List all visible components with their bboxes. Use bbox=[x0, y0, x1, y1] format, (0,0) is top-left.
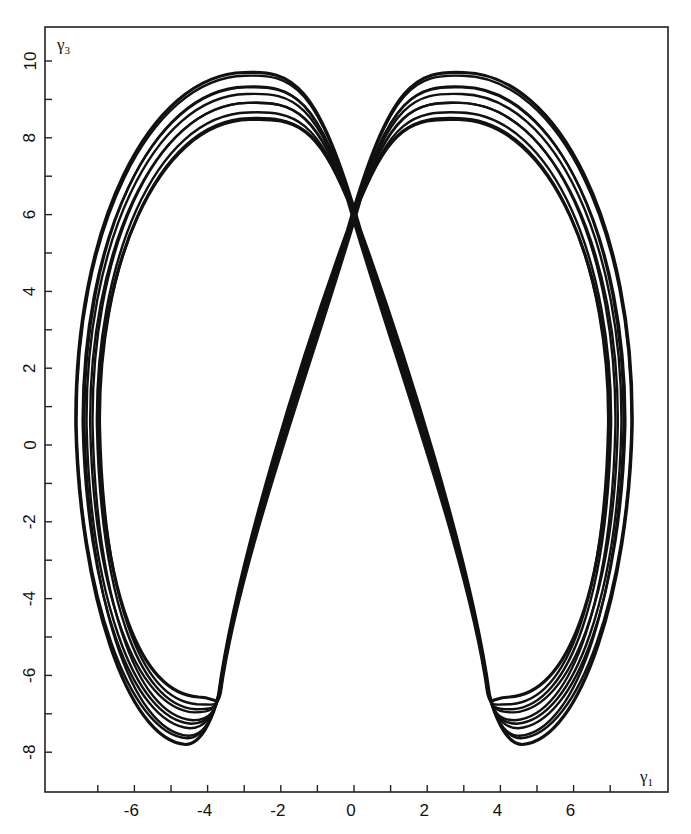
trajectory-strand bbox=[97, 112, 611, 709]
x-tick-label: 6 bbox=[566, 801, 575, 820]
x-tick-label: 2 bbox=[419, 801, 428, 820]
y-tick-label: -4 bbox=[21, 591, 40, 606]
trajectory-strand bbox=[90, 103, 618, 713]
x-tick-label: -2 bbox=[270, 801, 285, 820]
y-axis-title: γ3 bbox=[56, 35, 71, 56]
y-tick-label: -6 bbox=[21, 668, 40, 683]
trajectory-strand bbox=[87, 94, 622, 724]
y-tick-label: 10 bbox=[21, 52, 40, 71]
y-tick-label: 4 bbox=[21, 287, 40, 296]
y-tick-label: 8 bbox=[21, 133, 40, 142]
y-axis-ticks: -8-6-4-20246810 bbox=[21, 52, 53, 760]
y-tick-label: 0 bbox=[21, 440, 40, 449]
trajectory-strand bbox=[83, 87, 626, 728]
trajectory-curves bbox=[76, 72, 632, 744]
x-axis-ticks: -6-4-20246 bbox=[98, 785, 610, 820]
attractor-plot: -6-4-20246 -8-6-4-20246810 γ1 γ3 bbox=[0, 0, 691, 834]
y-tick-label: -8 bbox=[21, 745, 40, 760]
x-tick-label: 4 bbox=[493, 801, 502, 820]
x-tick-label: -6 bbox=[124, 801, 139, 820]
x-axis-title: γ1 bbox=[639, 767, 653, 788]
y-tick-label: 6 bbox=[21, 210, 40, 219]
x-tick-label: 0 bbox=[346, 801, 355, 820]
trajectory-strand bbox=[76, 72, 632, 744]
trajectory-strand bbox=[84, 86, 623, 735]
y-tick-label: 2 bbox=[21, 363, 40, 372]
x-tick-label: -4 bbox=[197, 801, 212, 820]
y-tick-label: -2 bbox=[21, 514, 40, 529]
trajectory-strand bbox=[93, 103, 616, 721]
